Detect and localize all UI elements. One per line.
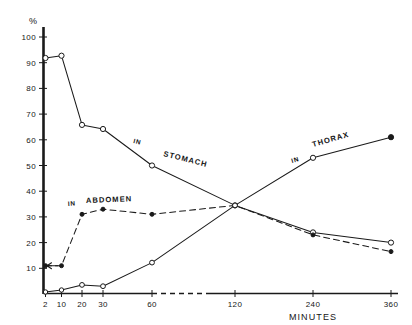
thorax-point-240 <box>310 155 315 160</box>
y-tick-label-70: 70 <box>26 110 36 119</box>
stomach-point-30 <box>100 126 105 131</box>
y-tick-label-90: 90 <box>26 59 36 68</box>
stomach-point-360 <box>388 240 393 245</box>
thorax-point-120 <box>233 203 238 208</box>
x-axis-title: MINUTES <box>289 312 337 322</box>
stomach-point-60 <box>149 163 154 168</box>
thorax-point-20 <box>80 283 85 288</box>
y-axis-unit-label: % <box>29 16 37 26</box>
y-tick-label-80: 80 <box>26 84 36 93</box>
stomach-label-in: IN <box>133 137 142 146</box>
y-tick-label-50: 50 <box>26 162 36 171</box>
thorax-point-60 <box>150 260 155 265</box>
stomach-point-10 <box>59 53 64 58</box>
thorax-point-2 <box>43 290 47 294</box>
stomach-point-2 <box>43 55 48 60</box>
x-tick-label-60: 60 <box>147 300 157 309</box>
x-axis-tick-labels: 2 10 20 30 60 120 240 360 <box>43 300 398 309</box>
stomach-point-20 <box>79 122 84 127</box>
thorax-point-30 <box>101 284 106 289</box>
thorax-label-name: THORAX <box>311 130 350 149</box>
line-chart-svg: 100 90 80 70 60 50 40 30 20 10 % 2 1 <box>0 0 412 325</box>
stomach-label-name: STOMACH <box>163 149 209 169</box>
abdomen-point-60 <box>150 212 154 216</box>
abdomen-point-360 <box>389 250 393 254</box>
abdomen-label-name: ABDOMEN <box>86 194 133 205</box>
abdomen-label-in: IN <box>68 199 76 207</box>
y-tick-label-60: 60 <box>26 136 36 145</box>
abdomen-point-10 <box>60 264 64 268</box>
series-in-abdomen: IN ABDOMEN <box>44 194 394 268</box>
thorax-line <box>46 137 392 292</box>
y-tick-label-100: 100 <box>21 33 36 42</box>
y-tick-label-10: 10 <box>26 264 36 273</box>
x-tick-label-20: 20 <box>77 300 87 309</box>
abdomen-point-240 <box>311 233 315 237</box>
thorax-label-in: IN <box>290 155 300 164</box>
y-tick-label-30: 30 <box>26 213 36 222</box>
x-tick-label-2: 2 <box>43 300 48 309</box>
thorax-point-360 <box>388 135 393 140</box>
abdomen-point-30 <box>101 207 105 211</box>
x-tick-label-30: 30 <box>98 300 108 309</box>
series-in-thorax: IN THORAX <box>43 130 393 294</box>
chart-figure: 100 90 80 70 60 50 40 30 20 10 % 2 1 <box>0 0 412 325</box>
x-tick-label-360: 360 <box>384 300 399 309</box>
thorax-point-10 <box>59 288 63 292</box>
abdomen-arrow-icon <box>47 263 58 269</box>
abdomen-point-20 <box>80 212 84 216</box>
y-tick-label-40: 40 <box>26 187 36 196</box>
x-tick-label-240: 240 <box>306 300 321 309</box>
axes-group <box>44 27 399 294</box>
stomach-line <box>46 56 392 243</box>
x-tick-label-120: 120 <box>228 300 243 309</box>
y-tick-label-20: 20 <box>26 239 36 248</box>
x-tick-label-10: 10 <box>57 300 67 309</box>
y-axis-tick-labels: 100 90 80 70 60 50 40 30 20 10 <box>21 33 36 273</box>
